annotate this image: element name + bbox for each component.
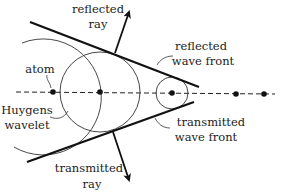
huygens-wavelet-label-line2: wavelet [4,118,49,132]
atom-dot [50,89,56,95]
reflected-wave-front-label-line1: reflected [175,39,228,53]
huygens-wavelet-label-line1: Huygens [1,103,53,117]
transmitted-ray-label-line2: ray [83,177,102,191]
atom-leader-curve [47,75,51,88]
atom-dot [97,89,103,95]
reflected-ray-arrow [115,12,129,53]
reflected-wave-front-label-line2: wave front [172,54,235,68]
atom-dot [233,91,239,97]
atom-dot [169,90,175,96]
transmitted-front-leader-curve [155,118,170,128]
reflected-ray-label-line1: reflected [72,2,125,16]
reflected-ray-label-line2: ray [89,17,108,31]
atom-dot [261,91,267,97]
transmitted-ray-label-line1: transmitted [55,161,124,175]
large-wavelet-circle [14,39,101,155]
huygens-diagram: reflected ray reflected wave front atom … [0,0,283,196]
transmitted-wave-front-label-line2: wave front [175,130,238,144]
transmitted-wave-front-label-line1: transmitted [177,115,246,129]
atom-label: atom [25,62,54,76]
reflected-front-leader-curve [157,56,173,65]
